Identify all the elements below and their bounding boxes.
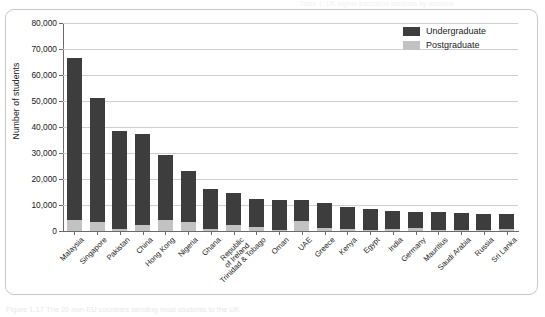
bar-segment-undergraduate[interactable] <box>272 200 287 230</box>
bar-segment-undergraduate[interactable] <box>408 212 423 228</box>
bar-segment-undergraduate[interactable] <box>499 214 514 229</box>
x-axis-tick <box>507 231 508 235</box>
figure-root: Table 1: UK higher education students by… <box>0 0 545 317</box>
y-axis-tick-label: 0 <box>11 226 57 236</box>
bar-segment-undergraduate[interactable] <box>249 199 264 227</box>
bar-column[interactable] <box>340 207 355 231</box>
bar-segment-postgraduate[interactable] <box>90 222 105 231</box>
bar-column[interactable] <box>249 199 264 231</box>
x-axis-tick <box>165 231 166 235</box>
x-axis-tick <box>325 231 326 235</box>
bar-column[interactable] <box>272 200 287 231</box>
x-axis-tick <box>347 231 348 235</box>
bar-column[interactable] <box>431 212 446 231</box>
legend-label-postgraduate: Postgraduate <box>426 40 480 50</box>
x-axis-tick <box>188 231 189 235</box>
bar-column[interactable] <box>408 212 423 231</box>
bar-segment-undergraduate[interactable] <box>181 171 196 221</box>
x-axis-tick <box>120 231 121 235</box>
x-axis-tick <box>74 231 75 235</box>
running-head: Table 1: UK higher education students by… <box>300 0 540 9</box>
bar-segment-undergraduate[interactable] <box>158 155 173 221</box>
legend-label-undergraduate: Undergraduate <box>426 26 486 36</box>
bar-column[interactable] <box>112 131 127 231</box>
bar-column[interactable] <box>476 214 491 231</box>
y-axis-tick-label: 60,000 <box>11 70 57 80</box>
x-axis-line <box>63 231 519 232</box>
y-axis-tick-label: 10,000 <box>11 200 57 210</box>
bar-segment-postgraduate[interactable] <box>158 220 173 231</box>
bar-segment-postgraduate[interactable] <box>67 220 82 231</box>
x-axis-tick <box>234 231 235 235</box>
bar-segment-undergraduate[interactable] <box>317 203 332 227</box>
x-axis-tick <box>97 231 98 235</box>
figure-caption: Figure 1.17 The 20 non-EU countries send… <box>6 305 366 317</box>
x-axis-tick <box>211 231 212 235</box>
bar-segment-undergraduate[interactable] <box>203 189 218 229</box>
x-axis-tick <box>279 231 280 235</box>
y-axis-tick-label: 20,000 <box>11 174 57 184</box>
x-axis-tick <box>461 231 462 235</box>
bar-column[interactable] <box>203 189 218 231</box>
bar-column[interactable] <box>158 155 173 231</box>
bar-column[interactable] <box>135 134 150 231</box>
y-axis-tick <box>59 231 63 232</box>
chart-legend: Undergraduate Postgraduate <box>403 26 486 54</box>
bar-segment-undergraduate[interactable] <box>454 213 469 230</box>
bar-column[interactable] <box>226 193 241 231</box>
y-axis-tick-label: 50,000 <box>11 96 57 106</box>
legend-item-postgraduate: Postgraduate <box>403 40 486 50</box>
x-axis-tick <box>302 231 303 235</box>
bar-segment-undergraduate[interactable] <box>294 200 309 220</box>
bar-segment-undergraduate[interactable] <box>226 193 241 225</box>
x-axis-tick <box>256 231 257 235</box>
bar-column[interactable] <box>317 203 332 231</box>
bar-segment-undergraduate[interactable] <box>431 212 446 230</box>
bar-column[interactable] <box>90 98 105 231</box>
bar-segment-undergraduate[interactable] <box>90 98 105 222</box>
x-axis-tick <box>484 231 485 235</box>
bar-column[interactable] <box>454 213 469 231</box>
bar-segment-undergraduate[interactable] <box>385 211 400 229</box>
bar-segment-undergraduate[interactable] <box>135 134 150 224</box>
x-axis-tick <box>416 231 417 235</box>
plot-area <box>63 23 518 231</box>
legend-swatch-postgraduate <box>403 41 420 50</box>
x-axis-tick <box>438 231 439 235</box>
bar-segment-postgraduate[interactable] <box>294 221 309 231</box>
x-axis-tick <box>143 231 144 235</box>
bar-segment-undergraduate[interactable] <box>340 207 355 229</box>
bar-segment-postgraduate[interactable] <box>181 222 196 231</box>
y-axis-tick-label: 70,000 <box>11 44 57 54</box>
bar-column[interactable] <box>363 209 378 231</box>
bar-series-layer <box>63 23 518 231</box>
bar-column[interactable] <box>181 171 196 231</box>
x-axis-tick <box>393 231 394 235</box>
y-axis-tick-label: 30,000 <box>11 148 57 158</box>
bar-column[interactable] <box>294 200 309 231</box>
bar-column[interactable] <box>499 214 514 231</box>
bar-segment-undergraduate[interactable] <box>476 214 491 230</box>
legend-swatch-undergraduate <box>403 27 420 36</box>
bar-column[interactable] <box>67 58 82 231</box>
y-axis-tick-label: 40,000 <box>11 122 57 132</box>
y-axis-tick-label: 80,000 <box>11 18 57 28</box>
bar-segment-undergraduate[interactable] <box>67 58 82 220</box>
legend-item-undergraduate: Undergraduate <box>403 26 486 36</box>
bar-segment-undergraduate[interactable] <box>363 209 378 230</box>
bar-column[interactable] <box>385 211 400 231</box>
x-axis-tick <box>370 231 371 235</box>
bar-segment-undergraduate[interactable] <box>112 131 127 229</box>
